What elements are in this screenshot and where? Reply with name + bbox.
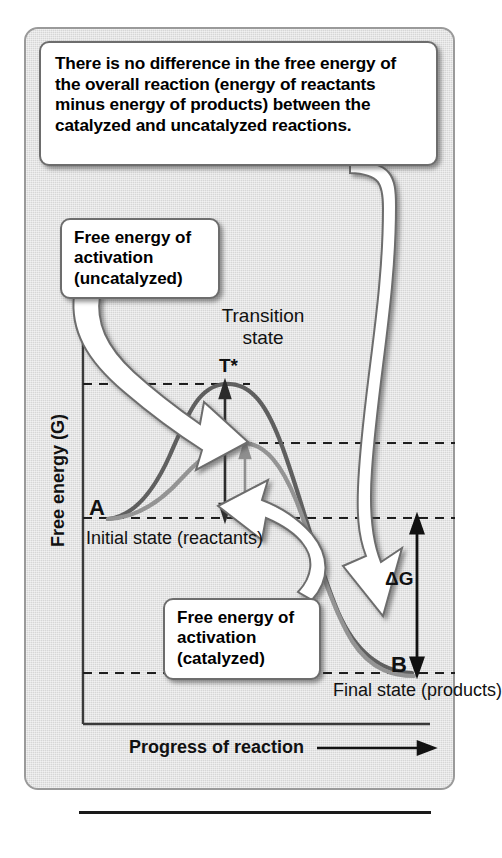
- label-transition-state: Transition state: [203, 305, 323, 349]
- label-point-b: B: [391, 652, 407, 678]
- arrow-delta-g: [411, 516, 423, 675]
- label-x-axis: Progress of reaction: [129, 737, 304, 758]
- pointer-tail-overall-free-energy: [343, 160, 402, 616]
- label-y-axis: Free energy (G): [48, 391, 69, 571]
- label-final-state: Final state (products): [333, 680, 502, 701]
- label-transition-state-symbol: T*: [219, 355, 238, 377]
- x-axis-direction-arrow: [317, 742, 434, 754]
- callout-activation-catalyzed: Free energy of activation (catalyzed): [163, 598, 321, 680]
- callout-overall-free-energy: There is no difference in the free energ…: [39, 41, 438, 166]
- bottom-rule: [79, 811, 431, 814]
- label-point-a: A: [89, 495, 105, 521]
- label-delta-g: ΔG: [385, 568, 413, 590]
- callout-activation-uncatalyzed: Free energy of activation (uncatalyzed): [60, 218, 220, 299]
- label-initial-state: Initial state (reactants): [86, 528, 263, 549]
